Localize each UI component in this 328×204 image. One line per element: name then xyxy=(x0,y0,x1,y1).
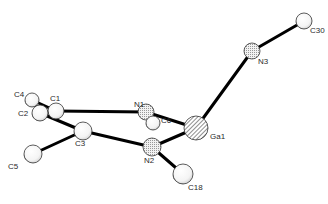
label-c3: C3 xyxy=(75,139,86,148)
bond-ga1-n3 xyxy=(196,51,252,128)
bond-n3-c30 xyxy=(252,21,304,51)
bonds xyxy=(32,21,304,174)
atom-c3 xyxy=(74,122,92,140)
label-c30: C30 xyxy=(310,26,325,35)
label-c1: C1 xyxy=(50,94,61,103)
label-n1: N1 xyxy=(134,100,145,109)
bond-c1-n1 xyxy=(56,111,146,112)
atoms xyxy=(24,13,312,184)
label-ga1: Ga1 xyxy=(210,132,226,141)
label-n3: N3 xyxy=(258,57,269,66)
atom-ga1 xyxy=(184,116,208,140)
atom-c2 xyxy=(32,105,48,121)
label-c2: C2 xyxy=(18,109,29,118)
label-n2: N2 xyxy=(144,156,155,165)
atom-c1 xyxy=(48,103,64,119)
atom-c18 xyxy=(173,164,193,184)
label-c5: C5 xyxy=(8,162,19,171)
molecule-diagram: Ga1N1N2N3C1C2C3C4C5C6C18C30 xyxy=(0,0,328,204)
atom-c4 xyxy=(25,93,39,107)
label-c18: C18 xyxy=(188,183,203,192)
atom-c5 xyxy=(24,145,42,163)
bond-c3-n2 xyxy=(83,131,152,147)
atom-n2 xyxy=(143,138,161,156)
label-c6: C6 xyxy=(161,116,172,125)
atom-c6 xyxy=(146,116,160,130)
label-c4: C4 xyxy=(14,90,25,99)
